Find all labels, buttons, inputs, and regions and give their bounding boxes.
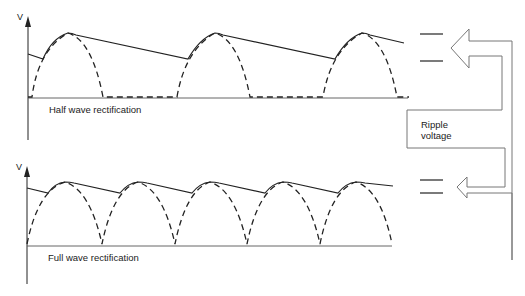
ripple-label-line2: voltage [421,130,452,141]
half-wave-dashed-signal [28,33,409,97]
top-ripple-markers [420,34,443,61]
top-y-axis-arrow-icon [25,16,31,27]
ripple-voltage-label: Ripple voltage [421,119,452,141]
full-wave-dashed-signal [27,182,392,244]
top-axis-label: V [17,12,23,22]
full-wave-smoothed-output [27,182,393,193]
bottom-ripple-markers [420,180,443,193]
bottom-axis-label: V [16,162,22,172]
bottom-y-axis-arrow-icon [24,166,30,177]
bottom-hollow-arrow-icon [457,177,512,260]
half-wave-graph [25,16,409,140]
top-hollow-arrow-icon [451,29,512,260]
full-wave-graph [24,166,393,284]
bottom-caption: Full wave rectification [48,252,139,263]
ripple-label-line1: Ripple [421,119,452,130]
top-caption: Half wave rectification [49,104,141,115]
